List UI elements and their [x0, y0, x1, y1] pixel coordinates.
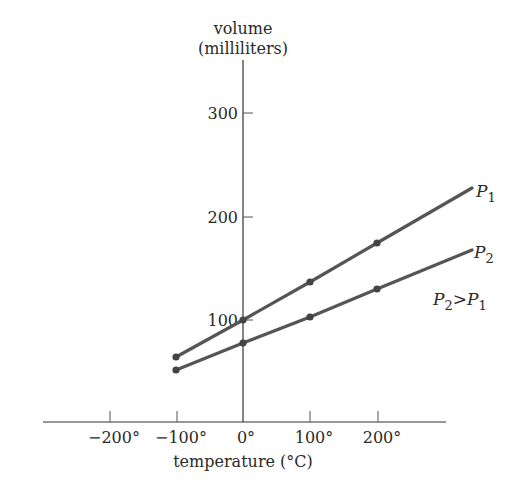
y-ticks: 300 200 100 [207, 104, 253, 330]
x-tick-label: −200° [88, 428, 140, 447]
x-axis-label: temperature (°C) [173, 452, 313, 471]
data-point [306, 313, 313, 320]
data-point [239, 316, 246, 323]
x-tick-label: −100° [155, 428, 207, 447]
y-axis-label: volume [213, 19, 273, 38]
x-tick-label: 0° [237, 428, 255, 447]
annotation-p2-gt-p1: P2>P1 [432, 289, 487, 313]
y-tick-label: 200 [207, 208, 238, 227]
y-axis-label: (milliliters) [198, 39, 288, 58]
x-ticks: −200° −100° 0° 100° 200° [88, 411, 401, 447]
x-tick-label: 200° [363, 428, 402, 447]
data-point [306, 278, 313, 285]
data-point [172, 353, 179, 360]
y-tick-label: 100 [207, 311, 238, 330]
series-label-p1: P1 [475, 181, 496, 205]
x-tick-label: 100° [295, 428, 334, 447]
chart: 300 200 100 −200° −100° 0° 100° 200° vol… [0, 0, 521, 499]
data-point [373, 239, 380, 246]
data-point [239, 339, 246, 346]
data-point [172, 366, 179, 373]
y-tick-label: 300 [207, 104, 238, 123]
series-label-p2: P2 [473, 242, 494, 266]
data-point [373, 285, 380, 292]
